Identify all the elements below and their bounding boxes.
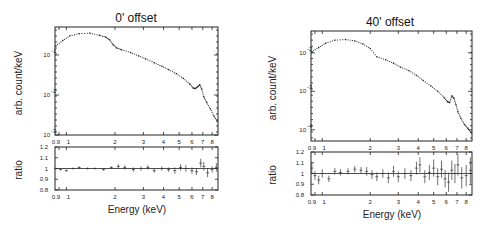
spectrum-point-minor — [360, 43, 361, 44]
x-tick-label: 2 — [113, 139, 117, 145]
y-tick-label: 10 — [43, 92, 50, 98]
spectrum-point-minor — [419, 77, 420, 78]
spectrum-point-minor — [432, 87, 433, 88]
spectrum-point-minor — [439, 92, 440, 93]
x-tick-label: 7 — [455, 199, 459, 205]
spectrum-point-minor — [337, 40, 338, 41]
spectrum-point — [311, 51, 312, 52]
spectrum-point — [318, 47, 319, 48]
y-tick-label: 1.1 — [296, 160, 305, 166]
spectrum-point-minor — [57, 44, 58, 45]
spectrum-point — [400, 66, 401, 67]
spectrum-point — [437, 91, 438, 92]
spectrum-point-minor — [140, 56, 141, 57]
spectrum-point-minor — [444, 98, 445, 99]
spectrum-point — [423, 80, 424, 81]
spectrum-point-minor — [100, 35, 101, 36]
spectrum-point-minor — [418, 76, 419, 77]
x-tick-label: 8 — [465, 145, 469, 151]
y-axis-label-spectrum: arb. count/keV — [13, 50, 24, 115]
x-tick-label: 6 — [190, 139, 194, 145]
spectrum-frame — [311, 31, 472, 141]
spectrum-point-minor — [397, 65, 398, 66]
spectrum-point-minor — [207, 104, 208, 105]
x-tick-label: 3 — [142, 194, 146, 200]
spectrum-point-minor — [468, 129, 469, 130]
spectrum-point-minor — [412, 73, 413, 74]
x-axis-label: Energy (keV) — [363, 209, 421, 220]
y-tick-label: 10 — [43, 132, 50, 138]
spectrum-point-minor — [469, 130, 470, 131]
spectrum-point-minor — [356, 41, 357, 42]
spectrum-point-minor — [375, 54, 376, 55]
y-tick-label: 1.2 — [40, 144, 49, 150]
spectrum-point — [109, 39, 110, 40]
spectrum-point — [416, 75, 417, 76]
spectrum-point-minor — [352, 40, 353, 41]
x-tick-label: 4 — [417, 145, 421, 151]
spectrum-point-minor — [84, 33, 85, 34]
spectrum-point-minor — [323, 44, 324, 45]
spectrum-point-minor — [358, 42, 359, 43]
spectrum-point-minor — [208, 105, 209, 106]
spectrum-point-minor — [64, 39, 65, 40]
plot-title: 0' offset — [115, 11, 157, 25]
x-tick-label: 0.9 — [52, 139, 61, 145]
spectrum-point-minor — [205, 101, 206, 102]
spectrum-point-minor — [366, 46, 367, 47]
spectrum-point-minor — [211, 110, 212, 111]
spectrum-point-minor — [209, 107, 210, 108]
spectrum-point-minor — [451, 97, 452, 98]
spectrum-point — [161, 66, 162, 67]
x-tick-label: 0.9 — [308, 145, 317, 151]
spectrum-point — [176, 73, 177, 74]
spectrum-point — [62, 40, 63, 41]
spectrum-point — [216, 121, 217, 122]
spectrum-point-minor — [414, 74, 415, 75]
spectrum-point — [201, 88, 202, 89]
spectrum-point-minor — [445, 99, 446, 100]
spectrum-point-minor — [149, 60, 150, 61]
spectrum-point-minor — [387, 60, 388, 61]
spectrum-point-minor — [212, 114, 213, 115]
spectrum-point — [203, 96, 204, 97]
y-axis-label-ratio: ratio — [13, 160, 24, 180]
spectrum-point-minor — [462, 121, 463, 122]
y-tick-exponent: -1 — [51, 48, 57, 54]
spectrum-point-minor — [202, 92, 203, 93]
spectrum-point-minor — [114, 46, 115, 47]
spectrum-point — [457, 111, 458, 112]
spectrum-point-minor — [404, 68, 405, 69]
spectrum-point — [470, 132, 471, 133]
spectrum-point-minor — [200, 85, 201, 86]
spectrum-point-minor — [455, 102, 456, 103]
spectrum-point — [130, 52, 131, 53]
spectrum-point-minor — [379, 57, 380, 58]
x-tick-label: 8 — [465, 199, 469, 205]
spectrum-point-minor — [381, 58, 382, 59]
spectrum-point-minor — [446, 100, 447, 101]
x-tick-label: 3 — [397, 199, 401, 205]
spectrum-point-minor — [440, 94, 441, 95]
x-tick-label: 7 — [201, 139, 205, 145]
spectrum-point — [183, 78, 184, 79]
spectrum-point — [168, 69, 169, 70]
spectrum-point — [121, 49, 122, 50]
spectrum-point-minor — [191, 85, 192, 86]
x-tick-label: 5 — [178, 139, 182, 145]
spectrum-point-minor — [456, 108, 457, 109]
y-tick-label: 1.1 — [40, 155, 49, 161]
spectrum-point-minor — [460, 116, 461, 117]
spectrum-point-minor — [316, 48, 317, 49]
spectrum-point-minor — [111, 42, 112, 43]
x-tick-label: 2 — [113, 194, 117, 200]
spectrum-point-minor — [395, 64, 396, 65]
spectrum-point — [370, 48, 371, 49]
spectrum-point-minor — [371, 50, 372, 51]
spectrum-point-minor — [410, 71, 411, 72]
spectrum-point-minor — [456, 106, 457, 107]
spectrum-point-minor — [114, 45, 115, 46]
x-tick-label: 7 — [201, 194, 205, 200]
y-tick-exponent: -3 — [51, 128, 57, 134]
spectrum-point-minor — [174, 72, 175, 73]
